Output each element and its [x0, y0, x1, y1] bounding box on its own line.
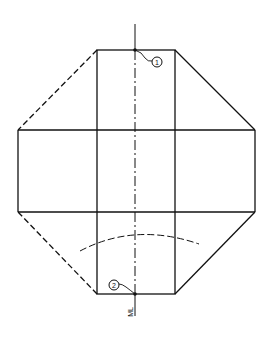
centerline-label: ML [127, 307, 134, 317]
callout-1-label: 1 [155, 59, 159, 66]
dashed-arc [80, 235, 199, 251]
upper-left-dashed-diagonal [18, 50, 97, 130]
lower-right-diagonal [175, 212, 255, 294]
point-2-dot [133, 292, 137, 296]
lower-left-dashed-diagonal [18, 212, 97, 294]
development-drawing: 1 2 ML [0, 0, 267, 340]
callout-2-label: 2 [112, 282, 116, 289]
central-strip [97, 50, 175, 294]
point-1-dot [133, 48, 137, 52]
leader-2 [119, 284, 135, 294]
upper-right-diagonal [175, 50, 255, 130]
leader-1 [135, 50, 152, 61]
